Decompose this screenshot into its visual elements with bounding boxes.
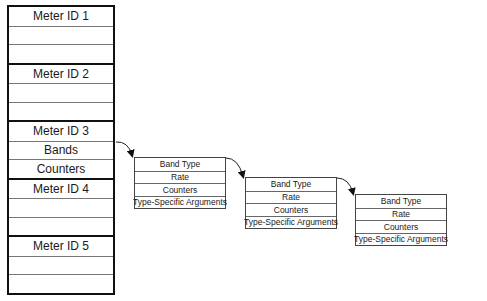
arrow-band-1-to-band-2 [226, 158, 243, 176]
arrow-bands-to-band-1 [116, 142, 132, 155]
connector-arrows [0, 0, 487, 301]
arrow-band-2-to-band-3 [337, 178, 353, 193]
